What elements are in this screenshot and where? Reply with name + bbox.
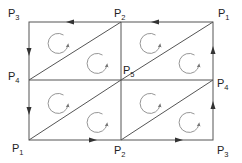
clockwise-arrow-icon (87, 53, 107, 73)
label-bottom-left: P1 (12, 142, 24, 157)
arrow-right-icon (175, 138, 183, 143)
arrow-up-icon (211, 46, 216, 54)
arrow-down-icon (27, 48, 32, 56)
label-mid-left: P4 (8, 70, 20, 85)
label-center: P5 (123, 64, 135, 79)
triangulated-grid-diagram: P3 P2 P1 P4 P5 P4 P1 P2 P3 (0, 0, 242, 163)
clockwise-arrow-icon (179, 112, 199, 132)
point-labels: P3 P2 P1 P4 P5 P4 P1 P2 P3 (8, 7, 230, 159)
arrow-left-icon (151, 20, 159, 25)
label-top-right: P1 (218, 7, 230, 22)
label-top-left: P3 (8, 7, 20, 22)
clockwise-arrow-icon (48, 33, 68, 53)
arrow-up-icon (211, 101, 216, 109)
label-bottom-right: P3 (217, 144, 229, 159)
clockwise-arrow-icon (179, 53, 199, 73)
clockwise-arrow-icon (140, 93, 160, 113)
clockwise-arrow-icon (48, 93, 68, 113)
label-bottom-mid: P2 (114, 144, 126, 159)
grid-lines (29, 22, 213, 140)
arrow-down-icon (27, 107, 32, 115)
arrow-right-icon (89, 138, 97, 143)
circulation-arcs (48, 33, 199, 132)
arrow-left-icon (66, 20, 74, 25)
label-top-mid: P2 (114, 7, 126, 22)
clockwise-arrow-icon (140, 33, 160, 53)
label-mid-right: P4 (217, 77, 229, 92)
clockwise-arrow-icon (87, 112, 107, 132)
